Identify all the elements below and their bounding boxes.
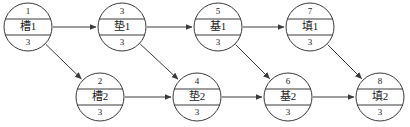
node-duration-text: 3	[120, 37, 125, 47]
node-5[interactable]: 5基13	[194, 3, 242, 51]
node-id-text: 6	[286, 76, 291, 86]
network-diagram-canvas: 1槽133垫135基137填132槽234垫236基238填23	[0, 0, 410, 127]
node-duration-text: 3	[308, 37, 313, 47]
node-label-text: 填2	[372, 89, 389, 102]
node-6[interactable]: 6基23	[264, 73, 312, 121]
edge-3-to-4	[140, 44, 178, 79]
edge-7-to-8	[328, 45, 362, 79]
node-label-text: 垫1	[114, 19, 131, 32]
node-2[interactable]: 2槽23	[76, 73, 124, 121]
edge-5-to-6	[236, 45, 270, 79]
node-label-text: 基2	[280, 90, 297, 102]
node-id-text: 4	[195, 76, 200, 86]
node-8[interactable]: 8填23	[356, 73, 404, 121]
node-duration-text: 3	[216, 37, 221, 47]
node-id-text: 3	[120, 6, 125, 16]
node-id-text: 7	[308, 6, 313, 16]
node-duration-text: 3	[98, 107, 103, 117]
network-diagram: 1槽133垫135基137填132槽234垫236基238填23	[0, 0, 410, 127]
node-1[interactable]: 1槽13	[4, 3, 52, 51]
node-id-text: 2	[98, 76, 103, 86]
node-label-text: 槽2	[92, 90, 109, 102]
node-duration-text: 3	[286, 107, 291, 117]
node-3[interactable]: 3垫13	[98, 3, 146, 51]
node-id-text: 8	[378, 76, 383, 86]
node-id-text: 1	[26, 6, 31, 16]
node-label-text: 槽1	[20, 20, 37, 32]
node-4[interactable]: 4垫23	[173, 73, 221, 121]
node-id-text: 5	[216, 6, 221, 16]
node-label-text: 基1	[210, 20, 227, 32]
node-duration-text: 3	[26, 37, 31, 47]
node-duration-text: 3	[195, 107, 200, 117]
edge-1-to-2	[46, 44, 81, 78]
node-duration-text: 3	[378, 107, 383, 117]
node-7[interactable]: 7填13	[286, 3, 334, 51]
node-label-text: 垫2	[189, 89, 206, 102]
node-label-text: 填1	[302, 19, 319, 32]
